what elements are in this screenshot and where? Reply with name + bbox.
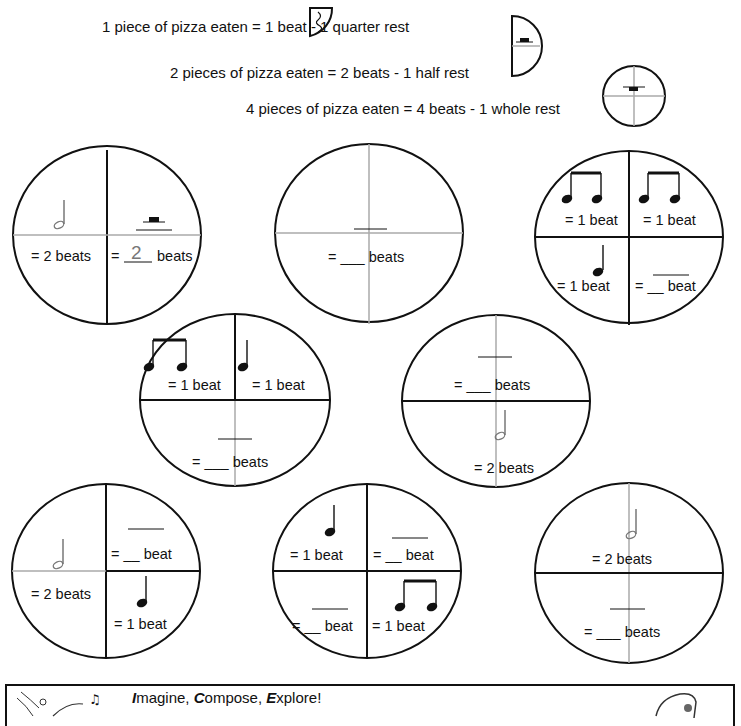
pizza-1-answer[interactable]: 2 [131,242,142,263]
pizza-6-label-tl: = 2 beats [31,586,91,602]
footer-title: Imagine, Compose, Explore! [132,689,321,706]
pizza-2-label[interactable]: = ___ beats [328,249,404,265]
half-note-icon [53,200,65,230]
pizza-7-label-bl[interactable]: = __ beat [292,618,353,634]
pizza-4: = 1 beat = 1 beat = ___ beats [140,312,340,497]
pizza-4-label-tl: = 1 beat [168,377,221,393]
pizza-3: = 1 beat = 1 beat = 1 beat = __ beat [535,145,735,330]
pizza-7: = 1 beat = __ beat = __ beat = 1 beat [270,483,480,668]
pizza-3-label-bl: = 1 beat [557,278,610,294]
pizza-7-label-tl: = 1 beat [290,547,343,563]
pizza-1-label-tl: = 2 beats [31,248,91,264]
pizza-8-label-bottom[interactable]: = ___ beats [584,624,660,640]
pizza-1-unit: beats [157,248,192,264]
legend-half-rest: 2 pieces of pizza eaten = 2 beats - 1 ha… [170,64,469,81]
eighth-notes-icon [560,173,603,205]
pizza-5-label-top[interactable]: = ___ beats [454,377,530,393]
pizza-7-label-br: = 1 beat [372,618,425,634]
pizza-8: = 2 beats = ___ beats [532,483,732,668]
pizza-6-label-br: = 1 beat [114,616,167,632]
pizza-4-label-bottom[interactable]: = ___ beats [192,454,268,470]
quarter-rest-slice-icon [300,0,360,40]
quarter-note-icon [135,576,148,609]
pizza-6-label-tr[interactable]: = __ beat [111,546,172,562]
pizza-5-label-bottom: = 2 beats [474,460,534,476]
half-note-icon [52,539,64,570]
footer-banner: ♫ Imagine, Compose, Explore! [5,684,735,726]
whole-rest-pizza-icon [600,63,668,129]
pizza-slice-icon [652,690,702,720]
pizza-7-label-tr[interactable]: = __ beat [373,547,434,563]
half-rest-icon [136,217,172,230]
music-swirl-logo-icon: ♫ [13,688,103,718]
eighth-notes-icon [637,173,681,205]
pizza-6: = 2 beats = __ beat = 1 beat [0,483,215,668]
legend-whole-rest: 4 pieces of pizza eaten = 4 beats - 1 wh… [246,100,560,117]
eighth-notes-icon [142,340,188,373]
half-note-icon [625,509,637,540]
quarter-note-icon [236,340,249,373]
pizza-8-label-top: = 2 beats [592,551,652,567]
pizza-1-eq: = [111,248,119,264]
half-rest-slice-icon [508,14,548,78]
quarter-note-icon [591,245,604,278]
legend-quarter-rest: 1 piece of pizza eaten = 1 beat - 1 quar… [102,18,409,35]
quarter-note-icon [323,505,336,538]
eighth-notes-icon [393,581,438,613]
pizza-1: = 2 beats = 2 beats [0,150,210,328]
svg-text:♫: ♫ [89,692,101,707]
pizza-4-label-tr: = 1 beat [252,377,305,393]
pizza-3-label-tr: = 1 beat [643,212,696,228]
pizza-3-label-br[interactable]: = __ beat [635,278,696,294]
pizza-2: = ___ beats [275,150,475,330]
pizza-5: = ___ beats = 2 beats [402,313,602,498]
pizza-3-label-tl: = 1 beat [565,212,618,228]
